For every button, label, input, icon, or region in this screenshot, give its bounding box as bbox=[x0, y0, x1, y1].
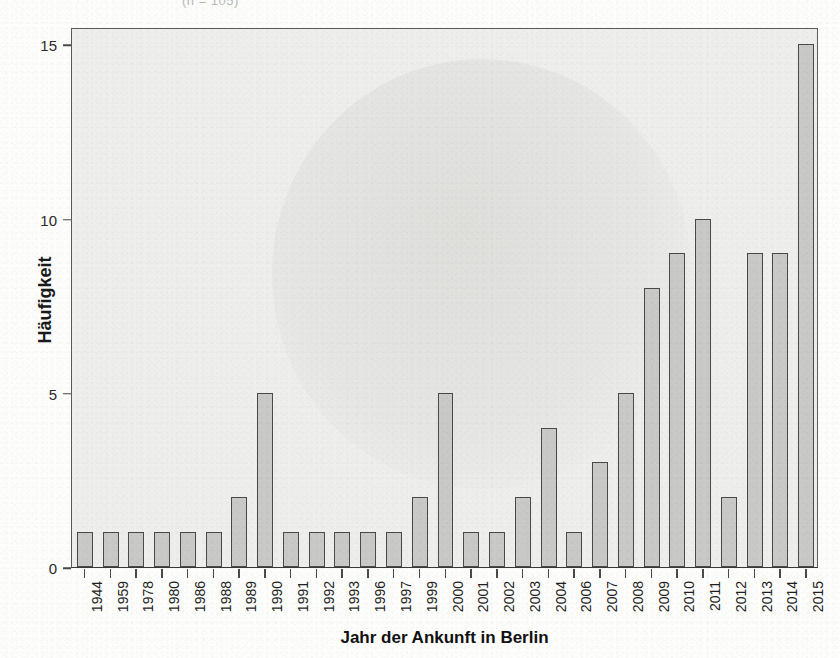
x-tick-mark bbox=[445, 569, 447, 578]
x-tick-mark bbox=[702, 569, 704, 578]
x-tick-label-2000: 2000 bbox=[450, 581, 466, 612]
y-tick-label-15: 15 bbox=[40, 37, 57, 54]
x-tick-mark bbox=[341, 569, 343, 578]
x-tick-label-1993: 1993 bbox=[346, 581, 362, 612]
x-tick-mark bbox=[290, 569, 292, 578]
x-tick-label-2015: 2015 bbox=[810, 581, 826, 612]
x-tick-mark bbox=[728, 569, 730, 578]
x-tick-mark bbox=[470, 569, 472, 578]
bar-series bbox=[72, 29, 817, 567]
x-tick-label-1980: 1980 bbox=[166, 581, 182, 612]
y-tick-mark bbox=[63, 219, 71, 221]
bar-2012 bbox=[721, 497, 737, 567]
bar-2002 bbox=[489, 532, 505, 567]
bar-1986 bbox=[180, 532, 196, 567]
cutoff-header-text: (n = 105) bbox=[182, 0, 239, 8]
x-tick-label-2004: 2004 bbox=[553, 581, 569, 612]
x-tick-label-2001: 2001 bbox=[475, 581, 491, 612]
y-tick-label-10: 10 bbox=[40, 211, 57, 228]
x-tick-mark bbox=[110, 569, 112, 578]
x-tick-label-2010: 2010 bbox=[681, 581, 697, 612]
bar-2007 bbox=[592, 462, 608, 567]
x-tick-mark bbox=[651, 569, 653, 578]
scan-top-strip: (n = 105) bbox=[0, 0, 840, 12]
x-tick-mark bbox=[238, 569, 240, 578]
bar-1996 bbox=[360, 532, 376, 567]
x-tick-label-1986: 1986 bbox=[192, 581, 208, 612]
bar-2003 bbox=[515, 497, 531, 567]
x-tick-label-1992: 1992 bbox=[321, 581, 337, 612]
bar-2010 bbox=[669, 253, 685, 567]
x-tick-mark bbox=[599, 569, 601, 578]
x-tick-mark bbox=[496, 569, 498, 578]
bar-2006 bbox=[566, 532, 582, 567]
x-tick-mark bbox=[419, 569, 421, 578]
x-axis-title: Jahr der Ankunft in Berlin bbox=[71, 628, 818, 648]
bar-2008 bbox=[618, 393, 634, 567]
x-tick-label-2007: 2007 bbox=[604, 581, 620, 612]
x-tick-mark bbox=[548, 569, 550, 578]
x-tick-mark bbox=[367, 569, 369, 578]
x-tick-mark bbox=[84, 569, 86, 578]
y-axis-title: Häufigkeit bbox=[35, 256, 56, 343]
x-tick-label-2006: 2006 bbox=[578, 581, 594, 612]
y-tick-label-5: 5 bbox=[49, 385, 57, 402]
bar-1997 bbox=[386, 532, 402, 567]
bar-2000 bbox=[438, 393, 454, 567]
bar-2015 bbox=[798, 44, 814, 567]
x-tick-mark bbox=[187, 569, 189, 578]
x-tick-mark bbox=[805, 569, 807, 578]
bar-2004 bbox=[541, 428, 557, 567]
x-tick-mark bbox=[264, 569, 266, 578]
x-tick-label-1988: 1988 bbox=[218, 581, 234, 612]
bar-1999 bbox=[412, 497, 428, 567]
bar-1980 bbox=[154, 532, 170, 567]
bar-1988 bbox=[206, 532, 222, 567]
x-tick-label-2013: 2013 bbox=[759, 581, 775, 612]
x-tick-label-2003: 2003 bbox=[527, 581, 543, 612]
bar-2009 bbox=[644, 288, 660, 567]
x-tick-mark bbox=[522, 569, 524, 578]
x-tick-mark bbox=[779, 569, 781, 578]
y-tick-label-0: 0 bbox=[49, 560, 57, 577]
x-tick-label-1959: 1959 bbox=[115, 581, 131, 612]
x-tick-label-1989: 1989 bbox=[243, 581, 259, 612]
bar-1992 bbox=[309, 532, 325, 567]
x-tick-label-1996: 1996 bbox=[372, 581, 388, 612]
x-tick-label-1997: 1997 bbox=[398, 581, 414, 612]
y-tick-mark bbox=[63, 393, 71, 395]
x-tick-mark bbox=[573, 569, 575, 578]
x-tick-mark bbox=[393, 569, 395, 578]
x-tick-label-2009: 2009 bbox=[656, 581, 672, 612]
x-tick-mark bbox=[135, 569, 137, 578]
bar-1993 bbox=[334, 532, 350, 567]
x-tick-label-1991: 1991 bbox=[295, 581, 311, 612]
bar-2014 bbox=[772, 253, 788, 567]
bar-1990 bbox=[257, 393, 273, 567]
y-axis: Häufigkeit 051015 bbox=[0, 0, 71, 658]
bar-1944 bbox=[77, 532, 93, 567]
x-tick-mark bbox=[676, 569, 678, 578]
bar-2013 bbox=[747, 253, 763, 567]
x-tick-label-1978: 1978 bbox=[140, 581, 156, 612]
x-tick-label-1990: 1990 bbox=[269, 581, 285, 612]
x-tick-mark bbox=[316, 569, 318, 578]
x-tick-label-2011: 2011 bbox=[707, 581, 723, 611]
x-tick-label-1944: 1944 bbox=[89, 581, 105, 612]
y-tick-mark bbox=[63, 567, 71, 569]
x-tick-mark bbox=[161, 569, 163, 578]
bar-1978 bbox=[128, 532, 144, 567]
x-tick-mark bbox=[754, 569, 756, 578]
bar-1989 bbox=[231, 497, 247, 567]
x-tick-mark bbox=[625, 569, 627, 578]
bar-2011 bbox=[695, 219, 711, 567]
plot-area bbox=[71, 28, 818, 568]
x-tick-mark bbox=[213, 569, 215, 578]
y-tick-mark bbox=[63, 45, 71, 47]
bar-2001 bbox=[463, 532, 479, 567]
x-tick-label-2008: 2008 bbox=[630, 581, 646, 612]
x-tick-label-2012: 2012 bbox=[733, 581, 749, 612]
bar-1991 bbox=[283, 532, 299, 567]
x-tick-label-2002: 2002 bbox=[501, 581, 517, 612]
bar-1959 bbox=[103, 532, 119, 567]
